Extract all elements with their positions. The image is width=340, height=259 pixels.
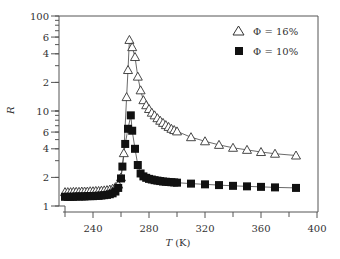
y-tick-label: 2 — [43, 172, 49, 183]
square-marker — [114, 184, 122, 192]
square-marker — [118, 163, 126, 171]
triangle-marker — [201, 137, 210, 145]
x-tick-label: 400 — [307, 223, 326, 234]
square-marker — [271, 183, 279, 191]
square-marker — [215, 181, 223, 189]
y-axis: 100642106421 — [30, 11, 59, 212]
square-marker — [243, 182, 251, 190]
legend-square-icon — [235, 47, 243, 55]
series-lines — [65, 40, 296, 197]
triangle-marker — [125, 35, 134, 43]
square-marker — [128, 127, 136, 135]
x-axis-title-var: T — [166, 237, 174, 248]
y-tick-label: 4 — [43, 143, 49, 154]
y-tick-label: 4 — [43, 48, 49, 59]
square-marker — [292, 184, 300, 192]
square-marker — [121, 140, 129, 148]
x-tick-label: 280 — [139, 223, 158, 234]
triangle-marker — [136, 86, 145, 94]
x-axis: 240280320360400 — [59, 206, 327, 234]
triangle-marker — [119, 149, 128, 157]
x-tick-label: 320 — [195, 223, 214, 234]
x-axis-title-unit: (K) — [175, 237, 190, 248]
y-tick-label: 6 — [43, 127, 49, 138]
triangle-marker — [187, 133, 196, 141]
triangle-marker — [133, 72, 142, 80]
y-tick-label: 1 — [43, 201, 49, 212]
square-marker — [257, 183, 265, 191]
triangle-marker — [122, 93, 131, 101]
y-tick-label: 6 — [43, 32, 49, 43]
y-axis-title: R — [5, 106, 16, 115]
triangle-marker — [131, 53, 140, 61]
x-axis-title: T(K) — [166, 237, 191, 248]
square-marker — [187, 180, 195, 188]
square-marker — [134, 161, 142, 169]
square-marker — [131, 145, 139, 153]
y-tick-label: 2 — [43, 77, 49, 88]
chart: 240280320360400 100642106421 R T(K) Φ = … — [0, 0, 340, 259]
legend-label-phi16: Φ = 16% — [253, 26, 298, 37]
square-marker — [201, 180, 209, 188]
y-tick-label: 100 — [30, 11, 49, 22]
legend: Φ = 16% Φ = 10% — [233, 26, 298, 57]
triangle-marker — [124, 66, 133, 74]
legend-label-phi10: Φ = 10% — [253, 46, 298, 57]
series-line-0 — [65, 40, 296, 192]
x-tick-label: 360 — [251, 223, 270, 234]
square-marker — [127, 111, 135, 119]
x-tick-label: 240 — [83, 223, 102, 234]
series-markers — [61, 35, 301, 200]
y-tick-label: 10 — [36, 106, 49, 117]
square-marker — [117, 174, 125, 182]
legend-triangle-icon — [233, 26, 244, 35]
square-marker — [229, 182, 237, 190]
square-marker — [173, 179, 181, 187]
